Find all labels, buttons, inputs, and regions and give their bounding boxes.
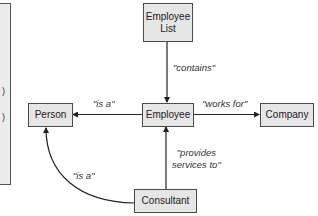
node-employee-list-line1: Employee	[146, 11, 190, 23]
node-consultant-label: Consultant	[142, 195, 190, 207]
node-company-label: Company	[266, 109, 309, 121]
edge-label-is-a-employee: "is a"	[93, 98, 115, 110]
edge-label-contains: "contains"	[173, 62, 215, 74]
node-person: Person	[28, 103, 73, 127]
node-employee: Employee	[142, 103, 194, 127]
node-employee-list-line2: List	[160, 23, 176, 35]
node-employee-list: Employee List	[143, 3, 193, 42]
edge-is-a-consultant	[46, 128, 134, 203]
edge-label-is-a-consultant: "is a"	[73, 170, 95, 182]
node-person-label: Person	[35, 109, 67, 121]
edge-label-works-for: "works for"	[202, 98, 247, 110]
edge-label-provides-line1: "provides	[177, 147, 216, 159]
node-employee-label: Employee	[146, 109, 190, 121]
node-company: Company	[260, 103, 314, 127]
edge-label-provides-line2: services to"	[172, 159, 221, 171]
node-consultant: Consultant	[134, 189, 197, 213]
edge-label-provides-services: "provides services to"	[172, 147, 221, 171]
